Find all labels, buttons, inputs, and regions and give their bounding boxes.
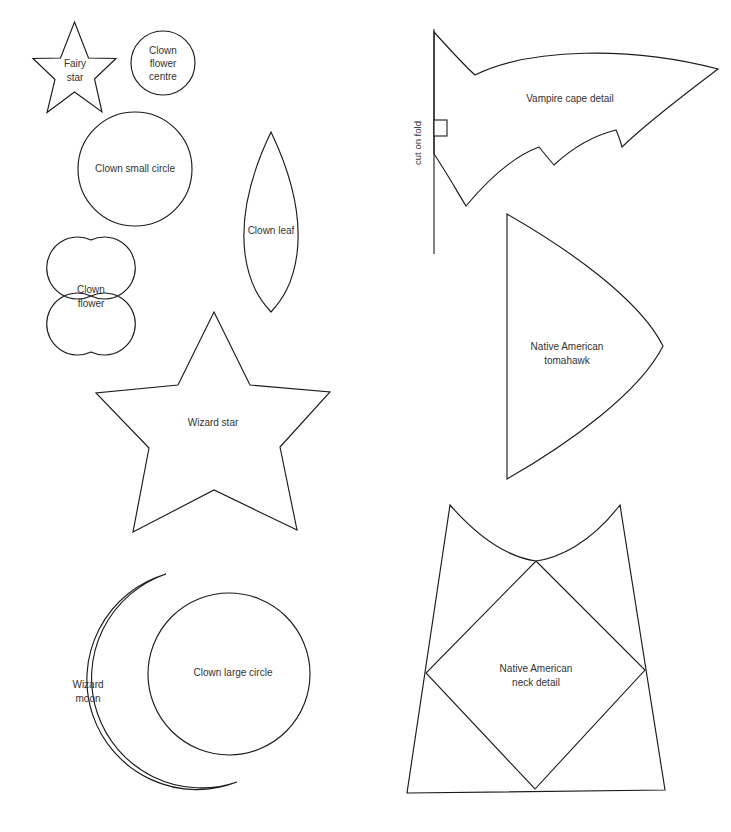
shape-wizard-star[interactable]: Wizard star — [96, 312, 330, 532]
pattern-sheet-page: Fairy star Clown flower centre Clown sma… — [0, 0, 731, 832]
clown-leaf-label: Clown leaf — [248, 225, 295, 236]
native-american-neck-detail-outline — [407, 505, 665, 793]
wizard-moon-label-line1: Wizard — [72, 679, 103, 690]
clown-flower-label-line1: Clown — [77, 284, 105, 295]
native-american-tomahawk-label-line1: Native American — [531, 341, 604, 352]
clown-flower-outline — [47, 237, 136, 355]
fairy-star-label-line1: Fairy — [64, 58, 86, 69]
vampire-cape-label: Vampire cape detail — [526, 93, 614, 104]
pattern-sheet-canvas: Fairy star Clown flower centre Clown sma… — [0, 0, 731, 832]
vampire-cape-outline — [434, 32, 718, 206]
shape-clown-flower-centre[interactable]: Clown flower centre — [131, 31, 195, 95]
clown-small-circle-label: Clown small circle — [95, 163, 175, 174]
shape-clown-small-circle[interactable]: Clown small circle — [78, 112, 192, 226]
native-american-neck-detail-label-line1: Native American — [500, 663, 573, 674]
clown-flower-centre-label-line2: flower — [150, 58, 177, 69]
clown-flower-label-line2: flower — [78, 298, 105, 309]
shape-native-american-tomahawk[interactable]: Native American tomahawk — [507, 214, 663, 479]
shape-clown-leaf[interactable]: Clown leaf — [244, 132, 298, 312]
wizard-star-label: Wizard star — [188, 417, 239, 428]
clown-large-circle-label: Clown large circle — [194, 667, 273, 678]
shape-clown-large-circle[interactable]: Clown large circle — [148, 593, 310, 755]
shape-fairy-star[interactable]: Fairy star — [33, 22, 116, 113]
shape-vampire-cape[interactable]: cut on fold Vampire cape detail — [412, 29, 718, 254]
native-american-neck-detail-label-line2: neck detail — [512, 677, 560, 688]
clown-flower-centre-label-line1: Clown — [149, 45, 177, 56]
shape-clown-flower[interactable]: Clown flower — [47, 237, 136, 355]
fairy-star-label-line2: star — [67, 72, 84, 83]
clown-leaf-outline — [244, 132, 298, 312]
clown-flower-centre-label-line3: centre — [149, 71, 177, 82]
vampire-cape-fold-notch-icon — [434, 120, 447, 136]
vampire-cape-fold-label: cut on fold — [412, 121, 423, 165]
native-american-tomahawk-label-line2: tomahawk — [544, 355, 591, 366]
wizard-moon-label-line2: moon — [75, 693, 100, 704]
shape-native-american-neck-detail[interactable]: Native American neck detail — [407, 505, 665, 793]
